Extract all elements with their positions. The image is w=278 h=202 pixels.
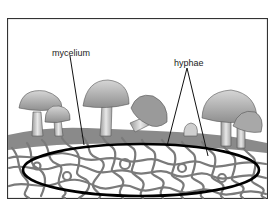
mycelium-label: mycelium	[52, 48, 90, 58]
hyphae-label: hyphae	[174, 58, 204, 68]
diagram-frame	[7, 18, 268, 199]
mycelium-illustration	[7, 18, 268, 199]
